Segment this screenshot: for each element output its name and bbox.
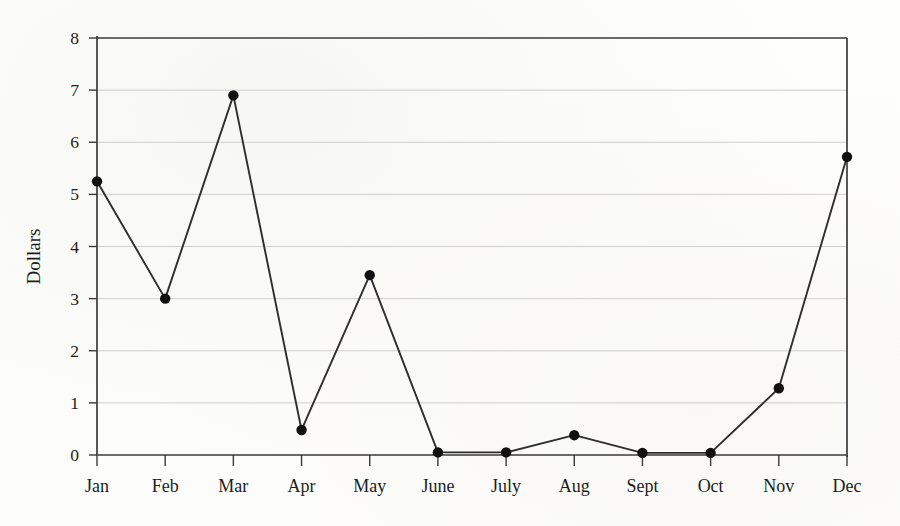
y-tick-label-2: 2 [70, 341, 79, 361]
y-tick-label-1: 1 [70, 393, 79, 413]
data-point-may [365, 270, 375, 280]
x-axis-ticks [97, 455, 847, 466]
data-point-dec [842, 152, 852, 162]
y-tick-label-5: 5 [70, 184, 79, 204]
line-chart: 012345678 JanFebMarAprMayJuneJulyAugSept… [0, 0, 900, 526]
data-point-aug [569, 430, 579, 440]
x-tick-label-may: May [353, 476, 386, 496]
data-point-june [433, 447, 443, 457]
y-axis-tick-labels: 012345678 [70, 28, 79, 465]
y-axis-title: Dollars [23, 229, 44, 285]
x-tick-label-oct: Oct [698, 476, 724, 496]
x-tick-label-feb: Feb [152, 476, 179, 496]
data-point-july [501, 447, 511, 457]
data-point-nov [774, 383, 784, 393]
x-tick-label-july: July [491, 476, 521, 496]
data-point-jan [92, 176, 102, 186]
data-point-apr [296, 425, 306, 435]
y-tick-label-4: 4 [70, 237, 79, 257]
x-tick-label-jan: Jan [85, 476, 109, 496]
y-tick-label-3: 3 [70, 289, 79, 309]
x-tick-label-dec: Dec [833, 476, 862, 496]
data-point-mar [228, 90, 238, 100]
data-point-feb [160, 293, 170, 303]
y-tick-label-7: 7 [70, 80, 79, 100]
x-tick-label-mar: Mar [218, 476, 248, 496]
data-point-sept [637, 448, 647, 458]
x-tick-label-aug: Aug [559, 476, 590, 496]
x-tick-label-apr: Apr [288, 476, 316, 496]
gridlines [97, 90, 847, 403]
chart-page: 012345678 JanFebMarAprMayJuneJulyAugSept… [0, 0, 900, 526]
x-axis-tick-labels: JanFebMarAprMayJuneJulyAugSeptOctNovDec [85, 476, 861, 496]
y-tick-label-6: 6 [70, 132, 79, 152]
y-axis-ticks [89, 38, 97, 455]
x-tick-label-june: June [421, 476, 454, 496]
y-tick-label-8: 8 [70, 28, 79, 48]
series-line-dollars [97, 95, 847, 453]
y-tick-label-0: 0 [70, 445, 79, 465]
data-point-oct [705, 448, 715, 458]
x-tick-label-sept: Sept [626, 476, 658, 496]
x-tick-label-nov: Nov [763, 476, 794, 496]
